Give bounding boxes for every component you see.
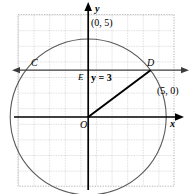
line-right-arrowhead (181, 67, 189, 73)
x-axis-label: x (170, 119, 175, 129)
point-label-5-0: (5, 0) (157, 86, 179, 96)
coordinate-geometry-figure: y x (0, 5) (5, 0) C D E y = 3 O (0, 0, 192, 194)
point-label-e: E (78, 73, 84, 82)
grid-background (18, 15, 174, 187)
point-label-0-5: (0, 5) (91, 18, 113, 28)
y-axis-arrowhead (84, 2, 92, 11)
point-label-d: D (147, 58, 154, 68)
origin-label: O (80, 120, 87, 130)
y-axis-label: y (95, 4, 99, 14)
diagram-canvas (0, 0, 192, 194)
line-equation-label: y = 3 (91, 73, 112, 83)
x-axis-arrowhead (175, 113, 184, 121)
point-label-c: C (31, 58, 38, 68)
line-left-arrowhead (12, 67, 20, 73)
